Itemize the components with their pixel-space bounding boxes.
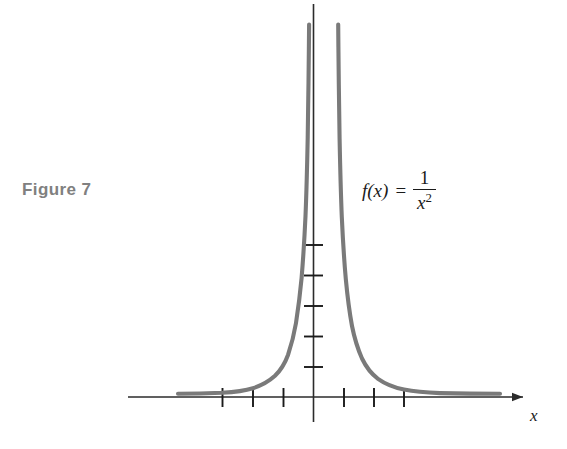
x-axis-label: x bbox=[530, 406, 538, 426]
denominator-base: x bbox=[417, 192, 425, 213]
equals-sign: = bbox=[395, 180, 406, 202]
function-annotation: f(x) = 1 x2 bbox=[362, 168, 436, 213]
function-plot bbox=[0, 0, 567, 449]
denominator-exponent: 2 bbox=[426, 190, 432, 205]
x-axis-arrowhead-icon bbox=[512, 393, 523, 401]
figure-page: Figure 7 bbox=[0, 0, 567, 449]
fraction-numerator: 1 bbox=[416, 168, 434, 189]
curve-left-branch bbox=[178, 25, 309, 394]
fraction-denominator: x2 bbox=[413, 190, 436, 213]
fraction: 1 x2 bbox=[413, 168, 436, 213]
function-lhs: f(x) bbox=[362, 180, 388, 202]
